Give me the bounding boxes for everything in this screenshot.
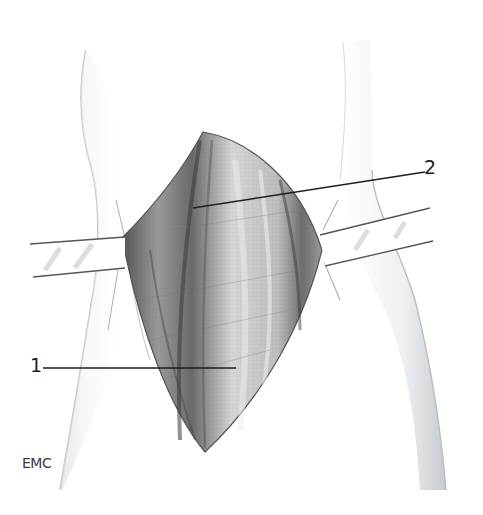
exposed-tissue — [122, 132, 322, 452]
surgical-illustration — [0, 0, 483, 515]
watermark-emc: EMC — [22, 456, 51, 470]
right-limb — [322, 40, 446, 490]
label-1: 1 — [30, 356, 42, 375]
label-2: 2 — [424, 158, 436, 177]
